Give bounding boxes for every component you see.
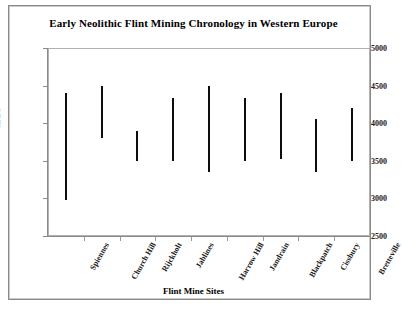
y-tick-label: 4500	[347, 81, 387, 90]
y-tick-mark	[43, 198, 47, 199]
y-tick-mark	[43, 86, 47, 87]
y-tick-mark	[43, 48, 47, 49]
y-axis-title: cal BC	[0, 108, 2, 128]
y-tick-label: 3000	[347, 194, 387, 203]
chart-title: Early Neolithic Flint Mining Chronology …	[0, 17, 387, 29]
range-bar	[315, 119, 317, 172]
x-tick-mark	[120, 237, 121, 241]
x-tick-mark	[84, 237, 85, 241]
range-bar	[208, 86, 210, 172]
range-bar	[351, 108, 353, 161]
range-bar	[65, 93, 67, 200]
x-tick-mark	[227, 237, 228, 241]
y-tick-label: 5000	[347, 44, 387, 53]
range-bar	[172, 98, 174, 160]
x-tick-mark	[191, 237, 192, 241]
x-tick-label: Bretteville	[377, 241, 402, 276]
range-bar	[136, 131, 138, 161]
x-tick-mark	[155, 237, 156, 241]
y-tick-mark	[43, 236, 47, 237]
range-bar	[101, 86, 103, 139]
y-axis-line	[47, 48, 48, 237]
x-tick-mark	[298, 237, 299, 241]
y-tick-mark	[43, 161, 47, 162]
x-axis-line	[47, 236, 370, 237]
y-tick-label: 2500	[347, 232, 387, 241]
x-tick-mark	[334, 237, 335, 241]
x-axis-title: Flint Mine Sites	[0, 286, 387, 296]
y-tick-mark	[43, 123, 47, 124]
range-bar	[280, 93, 282, 159]
x-tick-mark	[263, 237, 264, 241]
range-bar	[244, 98, 246, 160]
